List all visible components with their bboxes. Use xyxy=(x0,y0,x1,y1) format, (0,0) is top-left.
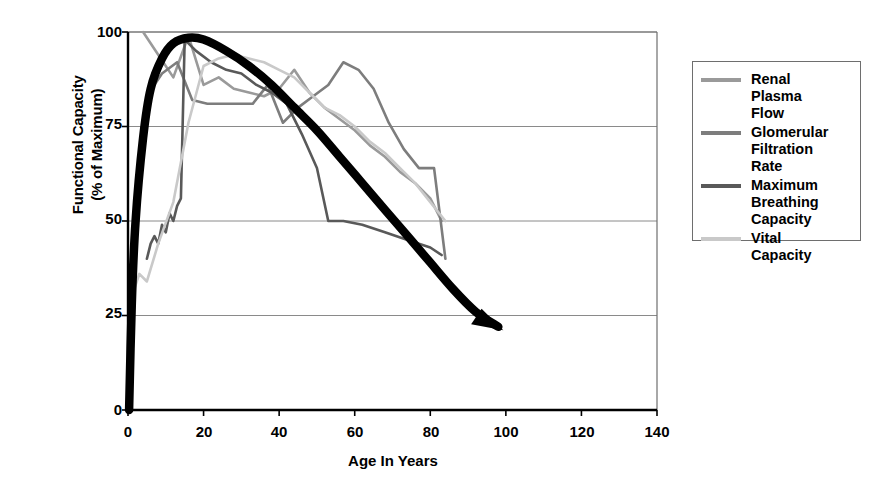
legend-label: Maximum Breathing Capacity xyxy=(751,177,819,228)
gridline-group xyxy=(128,32,657,316)
legend: Renal Plasma Flow Glomerular Filtration … xyxy=(692,61,861,241)
legend-label: Renal Plasma Flow xyxy=(751,71,802,122)
legend-swatch-glomerular-filtration-rate xyxy=(701,131,741,135)
legend-swatch-maximum-breathing-capacity xyxy=(701,184,741,188)
axis-tick-group xyxy=(122,32,657,416)
legend-label: Vital Capacity xyxy=(751,230,811,264)
series-line xyxy=(132,55,446,297)
chart-figure: Functional Capacity (% of Maximum) 100 7… xyxy=(0,0,885,493)
data-series-group xyxy=(132,32,446,297)
legend-swatch-renal-plasma-flow xyxy=(701,78,741,82)
legend-label: Glomerular Filtration Rate xyxy=(751,124,828,175)
legend-swatch-vital-capacity xyxy=(701,237,741,241)
legend-item-maximum-breathing-capacity[interactable]: Maximum Breathing Capacity xyxy=(701,177,819,228)
legend-item-vital-capacity[interactable]: Vital Capacity xyxy=(701,230,811,264)
legend-item-glomerular-filtration-rate[interactable]: Glomerular Filtration Rate xyxy=(701,124,828,175)
legend-item-renal-plasma-flow[interactable]: Renal Plasma Flow xyxy=(701,71,802,122)
